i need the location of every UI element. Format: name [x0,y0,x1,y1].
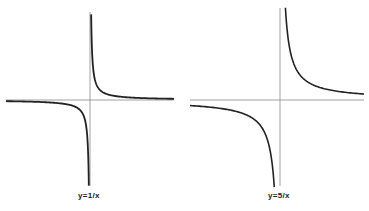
figure-canvas [0,0,369,211]
curve-positive-branch [91,14,174,98]
curve-negative-branch [190,106,274,188]
plot-1-over-x [6,12,174,186]
caption-right: y=5/x [268,191,290,200]
curve-negative-branch [6,101,89,185]
caption-left: y=1/x [78,191,100,200]
plot-5-over-x [190,8,364,187]
curve-positive-branch [285,8,364,94]
